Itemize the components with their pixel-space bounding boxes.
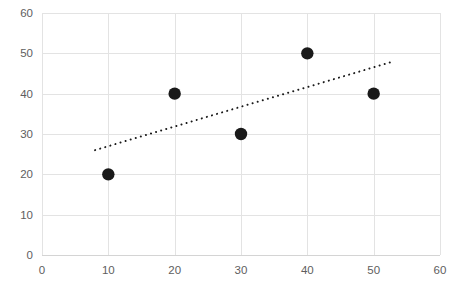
- data-point: [367, 87, 379, 99]
- x-axis-tick-labels: 0102030405060: [39, 264, 447, 276]
- y-tick-label-50: 50: [20, 47, 33, 59]
- x-tick-label-30: 30: [235, 264, 248, 276]
- data-point: [235, 128, 247, 140]
- y-tick-label-20: 20: [20, 168, 33, 180]
- data-point: [102, 168, 114, 180]
- x-tick-label-0: 0: [39, 264, 45, 276]
- scatter-chart: 0102030405060 0102030405060: [0, 0, 458, 283]
- plot-svg: 0102030405060 0102030405060: [0, 0, 458, 283]
- y-tick-label-40: 40: [20, 88, 33, 100]
- y-tick-label-60: 60: [20, 7, 33, 19]
- x-tick-label-40: 40: [301, 264, 314, 276]
- y-tick-label-30: 30: [20, 128, 33, 140]
- y-axis-tick-labels: 0102030405060: [20, 7, 33, 261]
- data-point: [168, 87, 180, 99]
- x-tick-label-50: 50: [367, 264, 380, 276]
- x-tick-label-60: 60: [434, 264, 447, 276]
- data-point: [301, 47, 313, 59]
- y-tick-label-10: 10: [20, 209, 33, 221]
- y-tick-label-0: 0: [27, 249, 33, 261]
- x-tick-label-20: 20: [168, 264, 181, 276]
- x-tick-label-10: 10: [102, 264, 115, 276]
